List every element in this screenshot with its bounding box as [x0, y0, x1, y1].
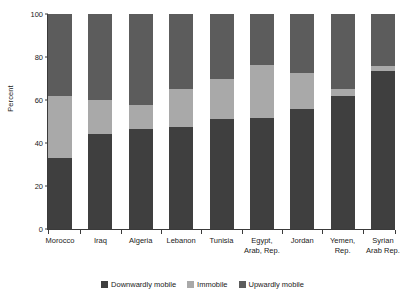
x-axis-tick-mark	[242, 230, 243, 234]
legend-swatch-icon	[187, 281, 194, 288]
x-axis-labels: MoroccoIraqAlgeriaLebanonTunisiaEgypt,Ar…	[48, 236, 395, 255]
x-axis-label-line: Yemen,	[323, 236, 363, 246]
x-axis-tick-mark	[363, 230, 364, 234]
y-axis-tick: 100	[27, 10, 48, 19]
legend-swatch-icon	[101, 281, 108, 288]
x-axis-label-line: Rep.	[323, 246, 363, 256]
x-axis-label-line: Tunisia	[202, 236, 242, 246]
x-axis-tick-mark	[161, 230, 162, 234]
y-axis-tick: 0	[27, 225, 48, 234]
bar-segment[interactable]	[129, 105, 153, 129]
bar-segment[interactable]	[290, 73, 314, 108]
x-axis-label-line: Arab, Rep.	[242, 246, 282, 256]
x-axis-label-line: Arab Rep.	[363, 246, 403, 256]
bar-segment[interactable]	[48, 14, 72, 96]
bar-segment[interactable]	[210, 119, 234, 229]
bar-segment[interactable]	[371, 14, 395, 66]
legend-label: Upwardly mobile	[249, 280, 304, 289]
bar-column[interactable]	[169, 14, 193, 229]
x-axis-label: Jordan	[282, 236, 322, 255]
x-axis-label: Yemen,Rep.	[323, 236, 363, 255]
x-axis-ticks	[47, 230, 395, 234]
y-axis-tick-label: 20	[27, 182, 43, 191]
bar-column[interactable]	[88, 14, 112, 229]
x-axis-label: Iraq	[80, 236, 120, 255]
x-axis-label-line: Morocco	[40, 236, 80, 246]
bar-segment[interactable]	[250, 14, 274, 65]
bar-column[interactable]	[371, 14, 395, 229]
x-axis-label: SyrianArab Rep.	[363, 236, 403, 255]
x-axis-tick-mark	[121, 230, 122, 234]
x-axis-tick-mark	[395, 230, 396, 234]
bar-segment[interactable]	[129, 129, 153, 229]
y-axis-tick-label: 40	[27, 139, 43, 148]
x-axis-tick-mark	[201, 230, 202, 234]
legend-item[interactable]: Upwardly mobile	[239, 280, 304, 289]
legend-label: Immobile	[197, 280, 227, 289]
x-axis-tick-mark	[322, 230, 323, 234]
stacked-bar-chart: Percent 020406080100 MoroccoIraqAlgeriaL…	[0, 0, 405, 297]
y-axis-tick: 60	[27, 96, 48, 105]
x-axis-label-line: Iraq	[80, 236, 120, 246]
x-axis-tick-mark	[282, 230, 283, 234]
y-axis-tick: 80	[27, 53, 48, 62]
x-axis-label-line: Algeria	[121, 236, 161, 246]
y-axis-tick-label: 60	[27, 96, 43, 105]
y-axis-tick: 20	[27, 182, 48, 191]
y-axis-tick-label: 100	[27, 10, 43, 19]
bar-segment[interactable]	[210, 14, 234, 79]
bar-segment[interactable]	[210, 79, 234, 120]
bar-segment[interactable]	[48, 158, 72, 229]
legend-item[interactable]: Immobile	[187, 280, 227, 289]
bar-segment[interactable]	[250, 65, 274, 119]
bar-column[interactable]	[290, 14, 314, 229]
x-axis-label: Tunisia	[202, 236, 242, 255]
y-axis-title: Percent	[6, 69, 15, 129]
x-axis-label-line: Jordan	[282, 236, 322, 246]
bar-column[interactable]	[48, 14, 72, 229]
x-axis-label-line: Egypt,	[242, 236, 282, 246]
bar-segment[interactable]	[331, 14, 355, 89]
bar-segment[interactable]	[88, 14, 112, 100]
x-axis-label: Algeria	[121, 236, 161, 255]
legend-swatch-icon	[239, 281, 246, 288]
bar-column[interactable]	[210, 14, 234, 229]
y-axis-tick: 40	[27, 139, 48, 148]
bar-segment[interactable]	[88, 134, 112, 229]
x-axis-label-line: Lebanon	[161, 236, 201, 246]
legend-item[interactable]: Downwardly mobile	[101, 280, 176, 289]
bar-segment[interactable]	[88, 100, 112, 134]
bar-segment[interactable]	[331, 96, 355, 229]
bar-segment[interactable]	[290, 14, 314, 73]
bar-segment[interactable]	[169, 127, 193, 229]
bar-column[interactable]	[129, 14, 153, 229]
bar-segment[interactable]	[169, 89, 193, 127]
bar-segment[interactable]	[129, 14, 153, 105]
bar-group	[48, 14, 395, 229]
x-axis-label-line: Syrian	[363, 236, 403, 246]
y-axis-tick-label: 80	[27, 53, 43, 62]
x-axis-label: Egypt,Arab, Rep.	[242, 236, 282, 255]
bar-segment[interactable]	[48, 96, 72, 158]
plot-area: 020406080100	[48, 14, 395, 229]
y-axis-tick-label: 0	[27, 225, 43, 234]
bar-column[interactable]	[250, 14, 274, 229]
chart-legend: Downwardly mobileImmobileUpwardly mobile	[0, 280, 405, 289]
x-axis-label: Morocco	[40, 236, 80, 255]
bar-column[interactable]	[331, 14, 355, 229]
bar-segment[interactable]	[250, 118, 274, 229]
legend-label: Downwardly mobile	[111, 280, 176, 289]
bar-segment[interactable]	[169, 14, 193, 89]
bar-segment[interactable]	[371, 71, 395, 229]
x-axis-tick-mark	[80, 230, 81, 234]
x-axis-label: Lebanon	[161, 236, 201, 255]
bar-segment[interactable]	[290, 109, 314, 229]
x-axis-tick-mark	[48, 230, 49, 234]
